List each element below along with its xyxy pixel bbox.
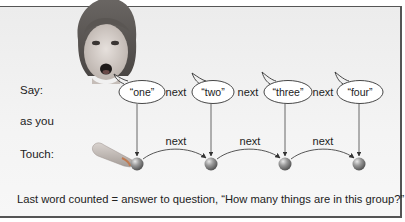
label-say: Say: — [20, 84, 43, 96]
touch-curved-arrows — [143, 149, 354, 159]
vertical-arrows — [137, 104, 359, 156]
ball-2 — [205, 158, 218, 171]
counted-objects — [131, 158, 366, 171]
ball-4 — [353, 158, 366, 171]
caption: Last word counted = answer to question, … — [17, 193, 404, 205]
bubble-text-two: “two” — [201, 86, 225, 98]
say-next-1: next — [166, 86, 187, 98]
label-as-you: as you — [20, 115, 54, 127]
touch-next-2: next — [240, 135, 261, 147]
say-next-3: next — [313, 86, 334, 98]
child-face-illustration — [78, 0, 137, 84]
touch-next-1: next — [166, 135, 187, 147]
label-touch: Touch: — [20, 148, 54, 160]
ball-3 — [279, 158, 292, 171]
bubble-text-three: “three” — [273, 86, 304, 98]
touch-next-3: next — [313, 135, 334, 147]
bubble-text-one: “one” — [130, 86, 155, 98]
say-next-2: next — [238, 86, 259, 98]
ball-1 — [131, 158, 144, 171]
counting-diagram: “one” “two” “three” “four” next next nex… — [0, 0, 405, 222]
pointing-finger-illustration — [92, 143, 133, 167]
bubble-text-four: “four” — [347, 86, 373, 98]
